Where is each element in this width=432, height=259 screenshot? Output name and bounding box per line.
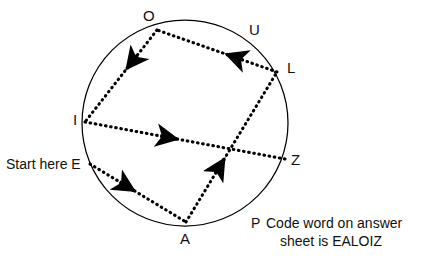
start-here-label: Start here E bbox=[6, 156, 81, 174]
arrowhead-i-to-z bbox=[160, 136, 177, 139]
edge-a-to-l bbox=[186, 72, 277, 222]
edge-e-to-a bbox=[90, 164, 186, 222]
arrowhead-e-to-a bbox=[120, 182, 135, 191]
edge-o-to-i bbox=[85, 30, 157, 122]
code-word-line-2: sheet is EALOIZ bbox=[266, 233, 402, 251]
code-word-note: Code word on answer sheet is EALOIZ bbox=[266, 215, 402, 250]
edge-i-to-z bbox=[85, 122, 285, 159]
diagram-page: O U L Z A I Start here E P Code word on … bbox=[0, 0, 432, 259]
node-label-u: U bbox=[249, 22, 260, 37]
arrowhead-o-to-i bbox=[127, 55, 137, 68]
arrowhead-a-to-l bbox=[215, 159, 224, 174]
node-label-i: I bbox=[73, 112, 77, 127]
node-label-z: Z bbox=[291, 152, 300, 167]
node-label-a: A bbox=[180, 231, 190, 246]
node-label-l: L bbox=[287, 60, 295, 75]
arrowheads-group bbox=[120, 54, 243, 190]
node-label-o: O bbox=[143, 8, 155, 23]
edges-group bbox=[85, 30, 285, 222]
node-label-p: P bbox=[251, 215, 260, 233]
arrowhead-l-to-o bbox=[227, 54, 243, 60]
code-word-line-1: Code word on answer bbox=[266, 215, 402, 231]
circle-outline bbox=[82, 20, 288, 226]
